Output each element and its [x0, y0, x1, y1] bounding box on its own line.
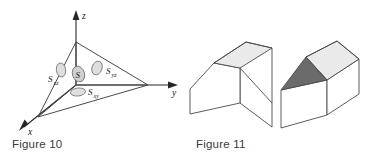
gable-side-wall-face: [240, 68, 272, 127]
figure-10-caption: Figure 10: [12, 138, 62, 150]
gable-front-face: [190, 63, 240, 114]
figure-10-panel: S S xz S yz S xy z y x Figure 10: [0, 0, 184, 162]
figure-10-artwork: S S xz S yz S xy z y x: [0, 0, 184, 135]
z-axis-arrowhead: [73, 10, 80, 20]
hip-roof-prism: [281, 41, 359, 128]
patch-label-S: S: [76, 70, 81, 80]
patch-label-Sxy-subscript: xy: [93, 93, 100, 99]
patch-label-Sxz: S: [48, 74, 53, 84]
figure-11-panel: Figure 11: [184, 0, 367, 162]
z-axis-label: z: [81, 11, 86, 21]
figure-11-caption: Figure 11: [196, 138, 246, 150]
figure-11-artwork: [184, 0, 367, 135]
x-axis-label: x: [27, 127, 33, 135]
y-axis-label: y: [171, 88, 177, 98]
patch-label-Sxy: S: [88, 87, 93, 97]
gable-roof-prism: [190, 42, 272, 127]
patch-label-Sxz-subscript: xz: [53, 80, 60, 86]
patch-label-Syz-subscript: yz: [111, 72, 118, 78]
figure-pair-page: S S xz S yz S xy z y x Figure 10: [0, 0, 367, 162]
patch-label-Syz: S: [106, 66, 111, 76]
